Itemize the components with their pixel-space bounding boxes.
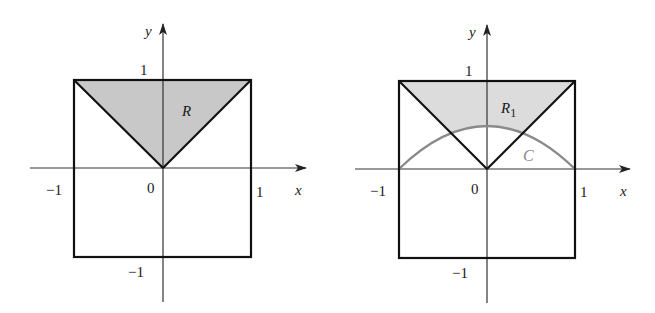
tick-x-pos: 1 xyxy=(580,184,588,200)
tick-y-pos: 1 xyxy=(465,63,473,79)
tick-y-neg: −1 xyxy=(452,265,468,281)
tick-x-neg: −1 xyxy=(46,182,62,198)
curve-c-label: C xyxy=(523,147,534,164)
region-r-label: R xyxy=(181,103,191,119)
x-axis-label: x xyxy=(294,182,302,198)
left-panel: y x 1 −1 −1 0 1 R xyxy=(30,23,306,302)
y-axis-label: y xyxy=(467,24,476,40)
tick-x-pos: 1 xyxy=(256,184,264,200)
tick-origin: 0 xyxy=(471,181,479,197)
x-axis-label: x xyxy=(619,183,627,199)
tick-y-pos: 1 xyxy=(140,62,148,78)
figure: y x 1 −1 −1 0 1 R y x 1 −1 −1 0 1 R1 C xyxy=(0,0,655,313)
tick-origin: 0 xyxy=(147,180,155,196)
tick-x-neg: −1 xyxy=(370,183,386,199)
tick-y-neg: −1 xyxy=(128,264,144,280)
right-panel: y x 1 −1 −1 0 1 R1 C xyxy=(355,24,630,303)
y-axis-label: y xyxy=(143,23,152,39)
